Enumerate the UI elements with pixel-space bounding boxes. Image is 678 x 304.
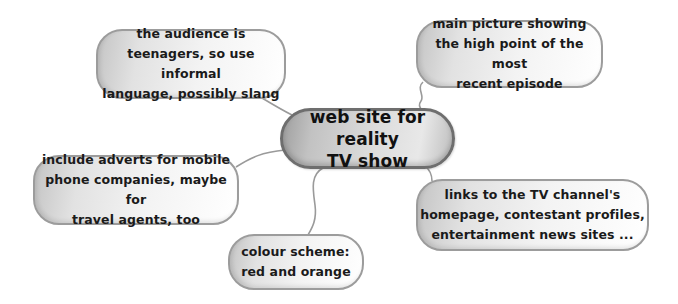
central-topic-node: web site for reality TV show xyxy=(280,108,455,169)
branch-node-colour-scheme: colour scheme: red and orange xyxy=(228,234,364,290)
branch-node-main-picture: main picture showing the high point of t… xyxy=(416,20,603,88)
branch-label-main-picture: main picture showing the high point of t… xyxy=(418,14,601,94)
central-topic-label: web site for reality TV show xyxy=(283,106,452,172)
branch-label-audience: the audience is teenagers, so use inform… xyxy=(98,24,284,104)
branch-label-adverts: include adverts for mobile phone compani… xyxy=(35,150,237,230)
connector-adverts xyxy=(236,150,285,167)
branch-node-links: links to the TV channel's homepage, cont… xyxy=(416,179,649,251)
branch-node-adverts: include adverts for mobile phone compani… xyxy=(33,155,239,225)
branch-label-colour-scheme: colour scheme: red and orange xyxy=(241,242,351,282)
branch-node-audience: the audience is teenagers, so use inform… xyxy=(96,29,286,99)
branch-label-links: links to the TV channel's homepage, cont… xyxy=(420,185,645,245)
connector-colour xyxy=(308,168,323,235)
